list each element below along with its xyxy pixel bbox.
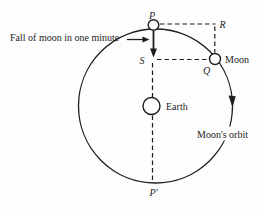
moon-marker (210, 54, 221, 65)
moon-fall-diagram: Fall of moon in one minute P R S Q Moon … (0, 0, 264, 210)
fall-annotation-label: Fall of moon in one minute (10, 32, 120, 43)
label-p: P (148, 10, 155, 21)
label-moon: Moon (225, 54, 249, 65)
label-p-prime: P′ (149, 187, 159, 198)
earth-marker (143, 98, 160, 115)
point-p-marker (148, 20, 159, 31)
label-moons-orbit: Moon's orbit (197, 129, 248, 140)
label-r: R (219, 19, 226, 30)
label-s: S (140, 55, 145, 66)
annotation-pointer-head-icon (143, 37, 150, 43)
orbit-direction-arrow-icon (229, 96, 236, 108)
fall-arrow-head-icon (150, 49, 157, 58)
label-q: Q (203, 65, 211, 76)
label-earth: Earth (166, 101, 188, 112)
figure-canvas: Fall of moon in one minute P R S Q Moon … (0, 0, 264, 210)
